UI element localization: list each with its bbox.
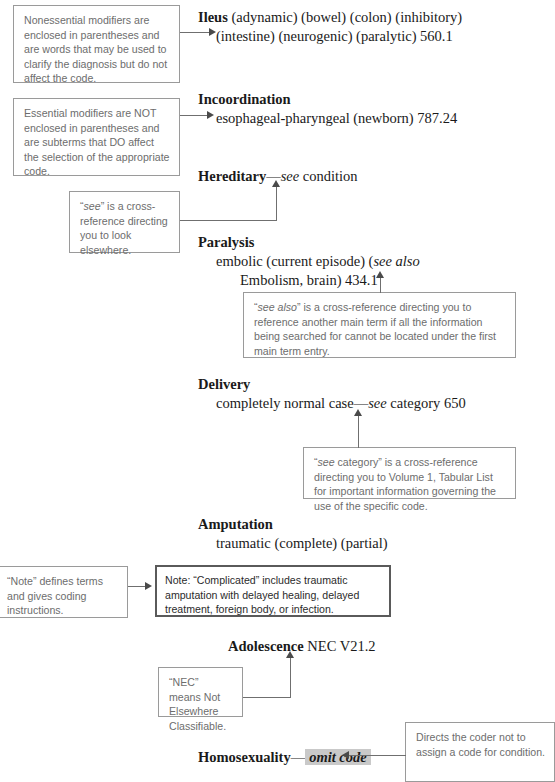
callout-essential-text: Essential modifiers are NOT enclosed in …: [24, 107, 169, 177]
callout-see-also-italic: see also: [258, 301, 297, 313]
entry-delivery-post: category 650: [387, 395, 466, 411]
callout-see-also: “see also” is a cross-reference directin…: [243, 292, 516, 358]
entry-paralysis-sub2: Embolism, brain) 434.1: [240, 271, 420, 290]
connector-nec-horizontal: [243, 697, 290, 698]
entry-amputation-sub: traumatic (complete) (partial): [216, 534, 388, 553]
arrowhead-nec-icon: [286, 651, 294, 658]
entry-paralysis-sub1-pre: embolic (current episode) (: [216, 253, 373, 269]
callout-see-category-quote-mid: category”: [335, 456, 382, 468]
entry-delivery-sub-pre: completely normal case: [216, 395, 354, 411]
callout-note-word: Note: [11, 575, 33, 587]
arrowhead-essential-icon: [207, 111, 214, 119]
connector-essential: [180, 115, 208, 116]
callout-note-description: “Note” defines terms and gives coding in…: [0, 566, 128, 618]
callout-omit-text: Directs the coder not to assign a code f…: [416, 731, 545, 758]
arrowhead-see-icon: [272, 180, 280, 187]
entry-delivery-term: Delivery: [198, 376, 250, 392]
entry-homosexuality-omit-code: omit code: [305, 749, 371, 765]
entry-hereditary-rest: condition: [299, 168, 357, 184]
callout-see: “see” is a cross-reference directing you…: [69, 191, 180, 253]
callout-nonessential-text: Nonessential modifiers are enclosed in p…: [24, 14, 167, 84]
entry-incoordination: Incoordination esophageal-pharyngeal (ne…: [198, 90, 457, 128]
arrowhead-see-category-icon: [354, 409, 362, 416]
connector-see-category-vertical: [358, 415, 359, 448]
entry-homosexuality-term: Homosexuality: [198, 749, 291, 765]
callout-nonessential-modifiers: Nonessential modifiers are enclosed in p…: [13, 5, 180, 83]
entry-paralysis-see-also: see also: [373, 253, 419, 269]
callout-see-category: “see category” is a cross-reference dire…: [303, 447, 516, 499]
callout-nec: “NEC” means Not Elsewhere Classifiable.: [158, 667, 243, 717]
arrowhead-omit-icon: [342, 751, 349, 759]
connector-see-horizontal: [180, 220, 276, 221]
entry-paralysis-term: Paralysis: [198, 234, 254, 250]
entry-incoordination-sub: esophageal-pharyngeal (newborn) 787.24: [216, 109, 457, 128]
entry-adolescence: Adolescence NEC V21.2: [228, 637, 376, 656]
entry-ileus-line1: (adynamic) (bowel) (colon) (inhibitory): [228, 9, 462, 25]
callout-nec-text: “NEC” means Not Elsewhere Classifiable.: [169, 676, 226, 732]
entry-paralysis: Paralysis embolic (current episode) (see…: [198, 233, 420, 290]
entry-amputation-term: Amputation: [198, 516, 273, 532]
entry-incoordination-term: Incoordination: [198, 91, 291, 107]
connector-note: [128, 586, 146, 587]
entry-homosexuality-dash: —: [291, 749, 306, 765]
entry-ileus-term: Ileus: [198, 9, 228, 25]
entry-paralysis-sub1: embolic (current episode) (see also: [216, 252, 420, 271]
entry-adolescence-rest: NEC V21.2: [304, 638, 376, 654]
callout-see-category-italic: see: [318, 456, 335, 468]
callout-omit-code: Directs the coder not to assign a code f…: [405, 722, 555, 782]
entry-amputation: Amputation traumatic (complete) (partial…: [198, 515, 388, 553]
connector-omit: [349, 755, 406, 756]
callout-essential-modifiers: Essential modifiers are NOT enclosed in …: [13, 98, 180, 176]
arrowhead-note-icon: [145, 582, 152, 590]
arrowhead-nonessential-icon: [209, 28, 216, 36]
connector-see-also-vertical: [380, 278, 381, 293]
entry-ileus-line2: (intestine) (neurogenic) (paralytic) 560…: [216, 27, 462, 46]
entry-ileus: Ileus (adynamic) (bowel) (colon) (inhibi…: [198, 8, 462, 46]
callout-see-italic: see: [84, 200, 101, 212]
connector-nonessential: [180, 32, 210, 33]
arrowhead-see-also-icon: [376, 271, 384, 278]
entry-delivery-see: see: [368, 395, 387, 411]
entry-hereditary-term: Hereditary: [198, 168, 266, 184]
entry-delivery: Delivery completely normal case—see cate…: [198, 375, 466, 413]
connector-nec-vertical: [290, 657, 291, 698]
entry-hereditary-see: see: [281, 168, 300, 184]
note-box-text: Note: “Complicated” includes traumatic a…: [165, 574, 359, 615]
entry-delivery-sub: completely normal case—see category 650: [216, 394, 466, 413]
note-box: Note: “Complicated” includes traumatic a…: [155, 565, 391, 617]
connector-see-vertical: [276, 186, 277, 221]
